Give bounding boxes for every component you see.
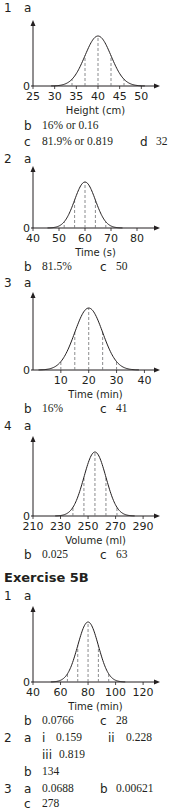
svg-text:230: 230 <box>50 520 71 533</box>
svg-text:Height (cm): Height (cm) <box>66 105 125 116</box>
svg-text:40: 40 <box>26 232 40 245</box>
chart-4: 0210230250270290Volume (ml) <box>0 430 171 548</box>
svg-text:270: 270 <box>105 520 126 533</box>
svg-text:80: 80 <box>81 686 95 699</box>
svg-text:40: 40 <box>91 90 105 103</box>
part-label: a <box>24 1 31 15</box>
svg-text:35: 35 <box>69 90 83 103</box>
part-label: a <box>24 731 31 745</box>
svg-text:60: 60 <box>54 686 68 699</box>
svg-text:10: 10 <box>54 374 68 387</box>
answer-text: 81.5% <box>42 260 72 272</box>
svg-text:20: 20 <box>82 374 96 387</box>
answer-text: 81.9% or 0.819 <box>42 135 113 147</box>
answer-text: 0.159 <box>56 731 82 743</box>
subpart-label: iii <box>42 748 52 762</box>
svg-text:25: 25 <box>26 90 40 103</box>
part-label: c <box>100 402 107 416</box>
svg-text:0: 0 <box>23 364 30 377</box>
answer-text: 50 <box>116 260 128 272</box>
svg-text:100: 100 <box>105 686 126 699</box>
part-label: b <box>24 765 32 779</box>
part-label: c <box>100 548 107 562</box>
part-label: c <box>24 797 31 810</box>
svg-text:30: 30 <box>110 374 124 387</box>
part-label: b <box>100 782 108 796</box>
answer-text: 28 <box>116 714 128 726</box>
svg-text:50: 50 <box>134 90 148 103</box>
svg-text:50: 50 <box>52 232 66 245</box>
svg-text:45: 45 <box>113 90 127 103</box>
answer-text: 0.228 <box>126 731 152 743</box>
svg-text:40: 40 <box>26 686 40 699</box>
answer-text: 32 <box>156 135 168 147</box>
part-label: a <box>24 782 31 796</box>
part-label: b <box>24 119 32 133</box>
answer-text: 0.025 <box>42 548 68 560</box>
svg-text:40: 40 <box>137 374 151 387</box>
subpart-label: ii <box>108 731 115 745</box>
answer-text: 278 <box>42 797 59 809</box>
question-number: 2 <box>4 731 12 745</box>
chart-1: 0253035404550Height (cm) <box>0 14 171 118</box>
svg-text:290: 290 <box>133 520 154 533</box>
svg-text:Time (s): Time (s) <box>74 247 116 258</box>
question-number: 3 <box>4 782 12 796</box>
part-label: d <box>140 135 148 149</box>
part-label: b <box>24 548 32 562</box>
answer-text: 0.0688 <box>42 782 74 794</box>
answer-text: 134 <box>42 765 59 777</box>
part-label: c <box>100 714 107 728</box>
svg-text:70: 70 <box>104 232 118 245</box>
svg-text:Volume (ml): Volume (ml) <box>65 535 126 546</box>
answer-text: 0.0766 <box>42 714 74 726</box>
svg-text:80: 80 <box>130 232 144 245</box>
answer-text: 63 <box>116 548 128 560</box>
svg-text:250: 250 <box>78 520 99 533</box>
section-heading: Exercise 5B <box>4 570 89 585</box>
svg-text:30: 30 <box>48 90 62 103</box>
answer-text: 16% or 0.16 <box>42 119 99 131</box>
svg-text:210: 210 <box>23 520 44 533</box>
question-number: 1 <box>4 1 12 15</box>
svg-text:Time (min): Time (min) <box>67 701 122 712</box>
answer-text: 0.00621 <box>116 782 153 794</box>
svg-text:60: 60 <box>78 232 92 245</box>
part-label: b <box>24 260 32 274</box>
chart-2: 04050607080Time (s) <box>0 160 171 260</box>
chart-3: 010203040Time (min) <box>0 286 171 402</box>
chart-5: 0406080100120Time (min) <box>0 600 171 714</box>
part-label: c <box>100 260 107 274</box>
part-label: c <box>24 135 31 149</box>
answer-text: 41 <box>116 402 128 414</box>
svg-text:Time (min): Time (min) <box>67 389 122 400</box>
part-label: b <box>24 402 32 416</box>
part-label: b <box>24 714 32 728</box>
answer-text: 0.819 <box>59 748 85 760</box>
svg-text:120: 120 <box>133 686 154 699</box>
subpart-label: i <box>42 731 45 745</box>
answer-text: 16% <box>42 402 63 414</box>
